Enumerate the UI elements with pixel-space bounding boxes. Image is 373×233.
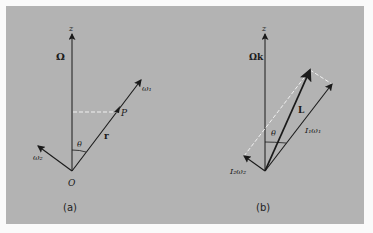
i2-omega2-vector bbox=[244, 156, 265, 171]
parallelogram-dashed-2 bbox=[310, 70, 332, 84]
radius-label: r bbox=[104, 131, 109, 141]
omega-k-label: Ωk bbox=[249, 52, 264, 62]
omega1-vector bbox=[72, 80, 141, 171]
figure-svg: z Ω ω₁ ω₂ P r θ O (a) z Ωk I₁ω₁ I₂ω₂ L θ… bbox=[0, 0, 373, 233]
panel-a: z Ω ω₁ ω₂ P r θ O (a) bbox=[33, 24, 152, 213]
i2-omega2-label: I₂ω₂ bbox=[229, 167, 246, 176]
i1-omega1-label: I₁ω₁ bbox=[304, 126, 321, 135]
caption-b: (b) bbox=[256, 202, 270, 213]
z-label-b: z bbox=[261, 24, 267, 33]
theta-label-a: θ bbox=[77, 140, 82, 149]
theta-arc-b bbox=[265, 142, 286, 143]
point-p-label: P bbox=[120, 108, 128, 118]
omega-label-a: Ω bbox=[56, 51, 65, 62]
omega2-label: ω₂ bbox=[33, 153, 43, 162]
point-p-arrow bbox=[114, 106, 120, 113]
omega1-label: ω₁ bbox=[142, 84, 152, 93]
theta-label-b: θ bbox=[271, 129, 276, 138]
panel-b: z Ωk I₁ω₁ I₂ω₂ L θ (b) bbox=[229, 24, 332, 213]
omega2-vector bbox=[38, 146, 72, 171]
theta-arc-a bbox=[72, 150, 86, 152]
angular-momentum-label: L bbox=[298, 105, 305, 115]
origin-label: O bbox=[68, 178, 76, 188]
z-label-a: z bbox=[68, 24, 74, 33]
caption-a: (a) bbox=[63, 202, 77, 213]
